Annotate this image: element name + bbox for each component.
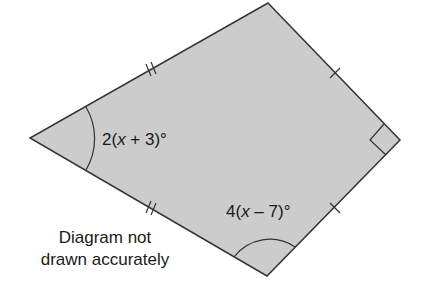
accuracy-note: Diagram not drawn accurately: [10, 227, 200, 271]
note-line-1: Diagram not: [10, 227, 200, 249]
bottom-angle-suffix: – 7)°: [250, 202, 291, 221]
bottom-angle-prefix: 4(: [226, 202, 241, 221]
left-angle-suffix: + 3)°: [126, 130, 167, 149]
left-angle-prefix: 2(: [102, 130, 117, 149]
bottom-angle-variable: x: [241, 202, 250, 221]
left-angle-variable: x: [117, 130, 126, 149]
left-angle-label: 2(x + 3)°: [102, 130, 167, 150]
bottom-angle-label: 4(x – 7)°: [226, 202, 290, 222]
note-line-2: drawn accurately: [10, 249, 200, 271]
